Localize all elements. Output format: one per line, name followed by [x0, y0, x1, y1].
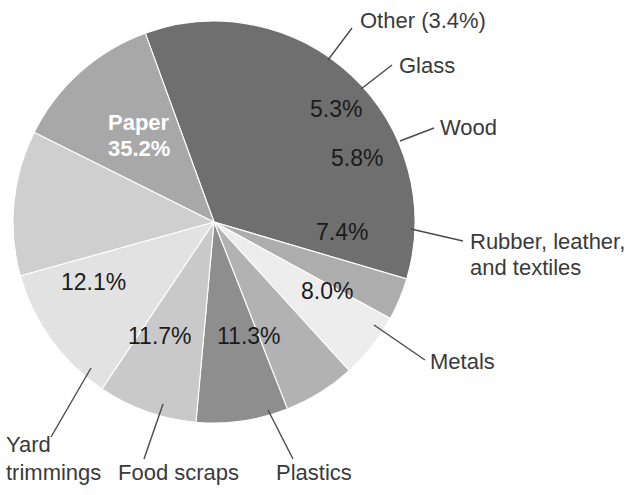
pie-chart-figure: Paper 35.2% 5.3% 5.8% 7.4% 8.0% 11.3% 11…: [0, 0, 624, 495]
paper-inside-label: Paper 35.2%: [108, 110, 170, 161]
paper-label-name: Paper: [108, 110, 170, 135]
label-rubber-line2: and textiles: [470, 255, 581, 280]
label-yard-trimmings-line2: trimmings: [6, 460, 101, 485]
food-scraps-percent-label: 11.7%: [128, 323, 192, 349]
label-rubber-line1: Rubber, leather,: [470, 229, 624, 254]
label-plastics: Plastics: [276, 460, 352, 485]
leader-line-other: [328, 28, 352, 60]
label-food-scraps: Food scraps: [118, 460, 239, 485]
rubber-percent-label: 7.4%: [316, 219, 368, 245]
leader-line-rubber: [411, 229, 463, 241]
label-yard-trimmings-line1: Yard: [6, 432, 51, 457]
label-metals: Metals: [430, 349, 495, 374]
label-glass: Glass: [399, 53, 455, 78]
yard-trimmings-percent-label: 12.1%: [61, 269, 126, 295]
leader-line-wood: [400, 128, 434, 141]
leader-line-plastics: [268, 410, 293, 459]
label-wood: Wood: [440, 115, 497, 140]
metals-percent-label: 8.0%: [301, 278, 353, 304]
wood-percent-label: 5.8%: [331, 145, 383, 171]
leader-line-metals: [374, 325, 425, 360]
glass-percent-label: 5.3%: [310, 96, 362, 122]
pie-chart-canvas: Paper 35.2% 5.3% 5.8% 7.4% 8.0% 11.3% 11…: [0, 0, 624, 495]
label-other: Other (3.4%): [360, 8, 486, 33]
leader-line-yard-trimmings: [51, 368, 91, 437]
paper-label-value: 35.2%: [108, 136, 170, 161]
plastics-percent-label: 11.3%: [217, 323, 281, 349]
leader-line-glass: [361, 65, 392, 89]
